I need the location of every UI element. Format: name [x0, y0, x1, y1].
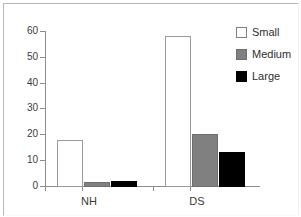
legend-swatch-large-icon: [236, 71, 247, 82]
y-tick-label-60: 60: [4, 26, 38, 36]
y-tick-label-30: 30: [4, 103, 38, 113]
y-tick-label-20-wrap: 20: [0, 129, 38, 139]
y-tick-50: [40, 57, 45, 58]
y-tick-40: [40, 83, 45, 84]
y-tick-label-60-wrap: 60: [0, 26, 38, 36]
y-tick-label-40: 40: [4, 78, 38, 88]
y-tick-label-30-wrap: 30: [0, 103, 38, 113]
bar-nh-medium: [84, 182, 110, 187]
x-tick-label-nh: NH: [59, 195, 119, 207]
legend-swatch-medium-icon: [236, 49, 247, 60]
y-tick-label-10-wrap: 10: [0, 155, 38, 165]
y-axis-line: [45, 31, 46, 187]
bar-ds-medium: [192, 134, 218, 187]
y-tick-30: [40, 108, 45, 109]
x-tick-group-divider: [153, 186, 154, 191]
legend-item-medium[interactable]: Medium: [236, 47, 298, 69]
x-tick-label-ds: DS: [167, 195, 227, 207]
legend-item-small[interactable]: Small: [236, 25, 298, 47]
legend-label-small: Small: [252, 25, 280, 39]
bar-nh-small: [57, 140, 83, 187]
y-tick-10: [40, 160, 45, 161]
bar-chart-figure: 60 50 40 30 20 10 0 NH DS Small: [0, 0, 301, 217]
legend-label-medium: Medium: [252, 47, 291, 61]
y-tick-label-50-wrap: 50: [0, 52, 38, 62]
y-tick-label-10: 10: [4, 155, 38, 165]
legend-item-large[interactable]: Large: [236, 69, 298, 91]
y-tick-label-20: 20: [4, 129, 38, 139]
chart-legend: Small Medium Large: [236, 25, 298, 91]
y-tick-20: [40, 134, 45, 135]
y-tick-label-50: 50: [4, 52, 38, 62]
y-tick-label-40-wrap: 40: [0, 78, 38, 88]
x-tick-left-edge: [45, 186, 46, 191]
bar-ds-small: [165, 36, 191, 187]
legend-swatch-small-icon: [236, 27, 247, 38]
bar-ds-large: [219, 152, 245, 187]
y-tick-label-0: 0: [4, 181, 38, 191]
y-tick-60: [40, 31, 45, 32]
y-tick-label-0-wrap: 0: [0, 181, 38, 191]
bar-nh-large: [111, 181, 137, 187]
legend-label-large: Large: [252, 69, 280, 83]
